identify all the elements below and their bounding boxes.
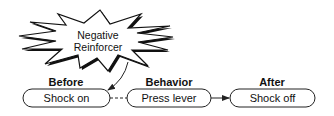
heading-behavior: Behavior — [145, 76, 193, 88]
starburst-shape: Negative Reinforcer — [19, 10, 175, 73]
starburst-label-line2: Reinforcer — [74, 41, 123, 53]
box-before: Shock on — [23, 89, 110, 107]
box-behavior-label: Press lever — [141, 92, 196, 104]
box-before-label: Shock on — [44, 92, 90, 104]
heading-after: After — [259, 76, 285, 88]
heading-before: Before — [49, 76, 84, 88]
box-after: Shock off — [230, 89, 315, 107]
diagram-canvas: Negative Reinforcer Before Behavior Afte… — [0, 0, 334, 116]
starburst-label-line1: Negative — [77, 29, 119, 41]
box-after-label: Shock off — [250, 92, 297, 104]
box-behavior: Press lever — [127, 89, 211, 107]
